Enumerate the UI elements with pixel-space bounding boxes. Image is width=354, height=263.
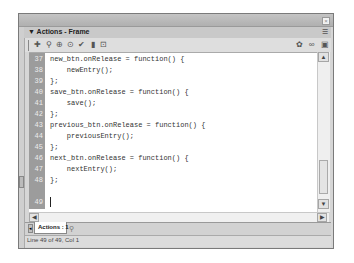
tab-actions-1[interactable]: Actions : 1 [34,222,67,234]
view-options-icon[interactable]: ▣ [320,40,329,49]
text-caret [50,197,51,207]
line-number: 45 [29,142,43,153]
add-script-item-icon[interactable]: ✚ [33,40,42,49]
code-text: }; [50,142,58,153]
vertical-scrollbar[interactable]: ▲ ▼ [317,52,330,212]
reference-icon[interactable]: ∞ [307,40,316,49]
status-bar: Line 49 of 49, Col 1 [25,235,331,247]
script-tab-strip: ◂ Actions : 1 ⚲ [25,222,331,235]
line-number: 46 [29,153,43,164]
code-text: new_btn.onRelease = function() { [50,54,184,65]
find-icon[interactable]: ⚲ [44,40,53,49]
line-number: 48 [29,175,43,186]
code-text: newEntry(); [50,65,113,76]
cursor-position-status: Line 49 of 49, Col 1 [27,237,79,243]
check-syntax-icon[interactable]: ⊙ [66,40,75,49]
tab-scroll-left-icon[interactable]: ◂ [28,224,33,233]
show-code-hint-icon[interactable]: ⊡ [99,40,108,49]
code-text: save(); [50,98,96,109]
line-number: 39 [29,76,43,87]
line-number: 43 [29,120,43,131]
line-number: 49 [29,197,43,208]
check-mark-icon[interactable]: ✔ [77,40,86,49]
panel-titlebar[interactable]: × [19,14,333,27]
panel-options-menu-icon[interactable]: ☰ [322,28,328,36]
code-text: }; [50,175,58,186]
line-number: 41 [29,98,43,109]
script-editor[interactable]: 37new_btn.onRelease = function() { 38 ne… [29,52,317,213]
horizontal-scrollbar[interactable]: ◀ ▶ [29,212,329,222]
line-number: 37 [29,54,43,65]
actions-toolbar: ✚ ⚲ ⊕ ⊙ ✔ ▮ ⊡ ✿ ∞ ▣ [25,38,331,52]
auto-format-icon[interactable]: ▮ [88,40,97,49]
line-number: 38 [29,65,43,76]
close-icon[interactable]: × [322,17,330,25]
debug-options-icon[interactable]: ✿ [295,40,304,49]
line-number: 42 [29,109,43,120]
code-text: }; [50,76,58,87]
line-number: 47 [29,164,43,175]
line-number: 40 [29,87,43,98]
scroll-right-icon[interactable]: ▶ [317,213,327,222]
code-text: save_btn.onRelease = function() { [50,87,189,98]
code-text: previous_btn.onRelease = function() { [50,120,205,131]
actions-panel-window: × ▼ Actions - Frame ☰ ✚ ⚲ ⊕ ⊙ ✔ ▮ ⊡ ✿ ∞ … [18,13,334,249]
scroll-down-icon[interactable]: ▼ [318,199,329,209]
code-text: nextEntry(); [50,164,117,175]
code-text: }; [50,109,58,120]
toolbar-divider [28,40,29,51]
vertical-scroll-thumb[interactable] [319,160,328,194]
code-text: previousEntry(); [50,131,134,142]
collapse-handle[interactable] [19,176,24,188]
scroll-left-icon[interactable]: ◀ [29,213,39,222]
line-number: 44 [29,131,43,142]
pin-script-icon[interactable]: ⚲ [69,225,74,233]
scroll-up-icon[interactable]: ▲ [318,52,329,62]
insert-target-path-icon[interactable]: ⊕ [55,40,64,49]
panel-header[interactable]: ▼ Actions - Frame ☰ [24,27,331,38]
panel-left-strip [19,27,25,248]
panel-title[interactable]: ▼ Actions - Frame [28,28,90,35]
code-text: next_btn.onRelease = function() { [50,153,189,164]
